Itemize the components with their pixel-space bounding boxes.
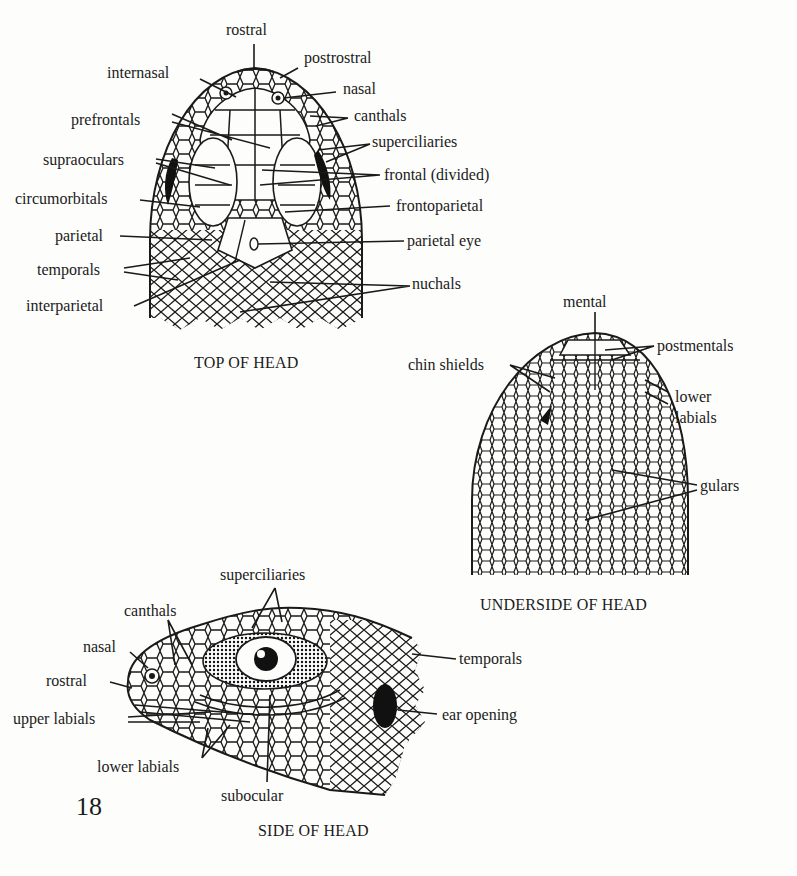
label-ear-opening: ear opening <box>442 706 517 724</box>
label-parietal-eye: parietal eye <box>407 232 481 250</box>
underside-of-head-drawing <box>465 330 695 580</box>
label-canthals-top: canthals <box>354 107 406 125</box>
label-postrostral: postrostral <box>304 49 372 67</box>
label-rostral-top: rostral <box>226 21 267 39</box>
label-subocular: subocular <box>221 787 283 805</box>
label-temporals-side: temporals <box>459 650 522 668</box>
label-mental: mental <box>563 293 607 311</box>
label-temporals-top: temporals <box>37 261 100 279</box>
top-of-head-drawing <box>140 60 380 340</box>
label-lower-labials-under-2: labials <box>675 409 717 427</box>
label-superciliaries-top: superciliaries <box>372 133 457 151</box>
label-canthals-side: canthals <box>124 602 176 620</box>
label-supraoculars: supraoculars <box>43 151 124 169</box>
label-lower-labials-under-1: lower <box>675 388 711 406</box>
label-chin-shields: chin shields <box>408 356 484 374</box>
label-gulars: gulars <box>700 477 739 495</box>
label-interparietal: interparietal <box>26 297 103 315</box>
label-lower-labials-side: lower labials <box>97 758 179 776</box>
caption-side-of-head: SIDE OF HEAD <box>258 822 369 840</box>
label-upper-labials: upper labials <box>13 710 95 728</box>
book-page: rostral postrostral internasal nasal can… <box>0 0 797 876</box>
page-number: 18 <box>76 792 102 822</box>
label-parietal: parietal <box>55 227 103 245</box>
label-nasal-side: nasal <box>83 638 116 656</box>
caption-underside-of-head: UNDERSIDE OF HEAD <box>480 596 647 614</box>
label-nasal-top: nasal <box>343 80 376 98</box>
label-postmentals: postmentals <box>657 337 733 355</box>
label-nuchals: nuchals <box>412 275 461 293</box>
label-internasal: internasal <box>107 64 169 82</box>
label-frontoparietal: frontoparietal <box>396 197 483 215</box>
label-rostral-side: rostral <box>46 672 87 690</box>
label-circumorbitals: circumorbitals <box>15 190 107 208</box>
caption-top-of-head: TOP OF HEAD <box>194 354 298 372</box>
label-superciliaries-side: superciliaries <box>220 566 305 584</box>
label-frontal-divided: frontal (divided) <box>384 166 489 184</box>
label-prefrontals: prefrontals <box>71 111 140 129</box>
scale-diagram-drawings <box>0 0 797 876</box>
